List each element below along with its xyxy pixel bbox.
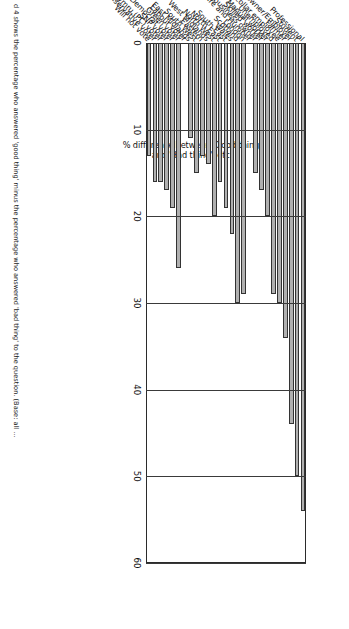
tick-label-10: 10 [132,124,142,135]
tick-label-0: 0 [132,40,142,45]
bar [295,43,300,476]
bar [158,43,163,182]
bar [241,43,246,294]
bar [176,43,181,268]
gridline-60 [146,563,306,564]
tick-label-60: 60 [132,558,142,569]
bar [289,43,294,424]
bar [301,43,306,511]
gridline-30 [146,303,306,304]
bar [259,43,264,190]
bar [283,43,288,338]
bar [271,43,276,294]
bar [253,43,258,173]
tick-label-20: 20 [132,211,142,222]
figure-page: % difference between 'Good thing' and 'B… [0,0,349,629]
bar [164,43,169,190]
bar [200,43,205,156]
bar [206,43,211,164]
bar [147,43,152,156]
tick-label-50: 50 [132,471,142,482]
bar [188,43,193,138]
tick-label-40: 40 [132,384,142,395]
plot-area: 0102030405060 [146,43,306,563]
gridline-20 [146,216,306,217]
bar-chart-figure: % difference between 'Good thing' and 'B… [0,0,320,629]
gridline-40 [146,390,306,391]
bar [277,43,282,303]
gridline-50 [146,476,306,477]
bar [194,43,199,173]
figure-caption: d 4 shows the percentage who answered 'g… [12,4,20,624]
bar [230,43,235,234]
bar [236,43,241,303]
bar [153,43,158,182]
bar [170,43,175,208]
gridline-10 [146,130,306,131]
tick-label-30: 30 [132,298,142,309]
bar [218,43,223,182]
bar [224,43,229,208]
